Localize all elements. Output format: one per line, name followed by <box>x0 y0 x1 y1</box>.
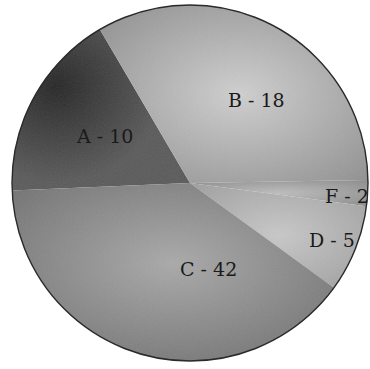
pie-chart: A - 10 B - 18 F - 2 D - 5 C - 42 <box>0 0 370 369</box>
pie-slices <box>12 5 368 361</box>
slice-label-f: F - 2 <box>325 185 369 207</box>
slice-label-a: A - 10 <box>76 125 133 147</box>
slice-label-d: D - 5 <box>309 229 355 251</box>
slice-label-b: B - 18 <box>228 89 285 111</box>
slice-label-c: C - 42 <box>180 258 237 280</box>
